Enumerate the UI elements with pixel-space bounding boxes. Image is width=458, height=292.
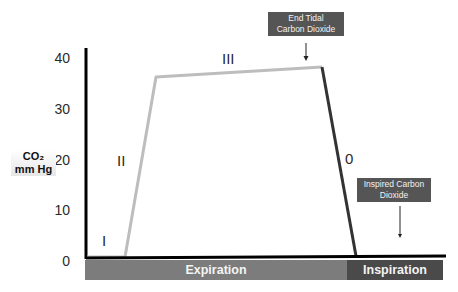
phase-label-II: II xyxy=(117,153,125,168)
phase-label-0: 0 xyxy=(345,151,353,166)
y-tick-0: 0 xyxy=(40,254,70,268)
expiration-bar: Expiration xyxy=(85,260,347,280)
x-axis xyxy=(86,256,446,258)
phase-label-I: I xyxy=(102,233,106,248)
y-tick-40: 40 xyxy=(40,51,70,65)
y-tick-10: 10 xyxy=(40,203,70,217)
inspiration-bar: Inspiration xyxy=(347,260,443,280)
inspired-co2-callout: Inspired Carbon Dioxide xyxy=(357,178,431,202)
capnogram-plot xyxy=(0,0,458,292)
y-axis-label: CO₂ mm Hg xyxy=(11,150,56,176)
phase-label-III: III xyxy=(222,51,235,66)
end-tidal-co2-callout: End Tidal Carbon Dioxide xyxy=(268,12,344,36)
y-tick-30: 30 xyxy=(40,102,70,116)
